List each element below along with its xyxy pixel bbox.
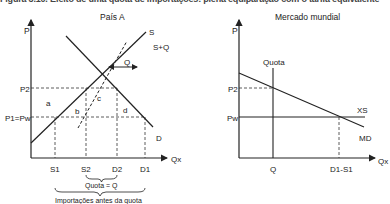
- brace-quota-label: Quota = Q: [85, 182, 118, 190]
- supply-label: S: [149, 28, 154, 37]
- md-label: MD: [359, 134, 372, 143]
- right-panel: Mercado mundial P Qx MD XS Quota P2 Pw Q…: [227, 12, 388, 174]
- supply-curve: [31, 32, 146, 143]
- quota-arrow-label: Q: [124, 58, 130, 67]
- supply-plus-quota-label: S+Q: [153, 43, 169, 52]
- left-panel: País A P Qx S S+Q D Q P2 P1=Pw a b c d: [5, 12, 181, 204]
- x-tick-s1: S1: [50, 165, 60, 174]
- demand-label: D: [156, 134, 162, 143]
- brace-imports-label: Importações antes da quota: [55, 197, 142, 204]
- left-panel-title: País A: [100, 12, 125, 22]
- right-panel-title: Mercado mundial: [275, 12, 340, 22]
- right-x-tick-d1-s1: D1-S1: [330, 165, 353, 174]
- quota-label: Quota: [263, 58, 285, 67]
- right-x-tick-q: Q: [270, 165, 276, 174]
- quota-brace: [86, 175, 117, 182]
- right-pw-label: Pw: [227, 114, 238, 123]
- p2-label: P2: [20, 85, 30, 94]
- right-x-axis-label: Qx: [378, 157, 388, 166]
- left-x-axis-label: Qx: [171, 155, 181, 164]
- right-y-axis-label: P: [232, 26, 238, 36]
- area-b-label: b: [75, 107, 80, 116]
- x-tick-d1: D1: [140, 165, 151, 174]
- x-tick-s2: S2: [81, 165, 91, 174]
- area-d-label: d: [123, 106, 127, 115]
- x-tick-d2: D2: [112, 165, 123, 174]
- p1-pw-label: P1=Pw: [5, 114, 31, 123]
- area-c-label: c: [97, 94, 101, 103]
- quota-diagram: País A P Qx S S+Q D Q P2 P1=Pw a b c d: [0, 0, 390, 204]
- supply-plus-quota-curve: [78, 41, 127, 128]
- area-a-label: a: [46, 99, 51, 108]
- left-y-axis-label: P: [24, 26, 30, 36]
- right-p2-label: P2: [228, 85, 238, 94]
- xs-label: XS: [357, 106, 368, 115]
- imports-brace: [55, 188, 145, 196]
- import-demand-curve: [239, 73, 364, 127]
